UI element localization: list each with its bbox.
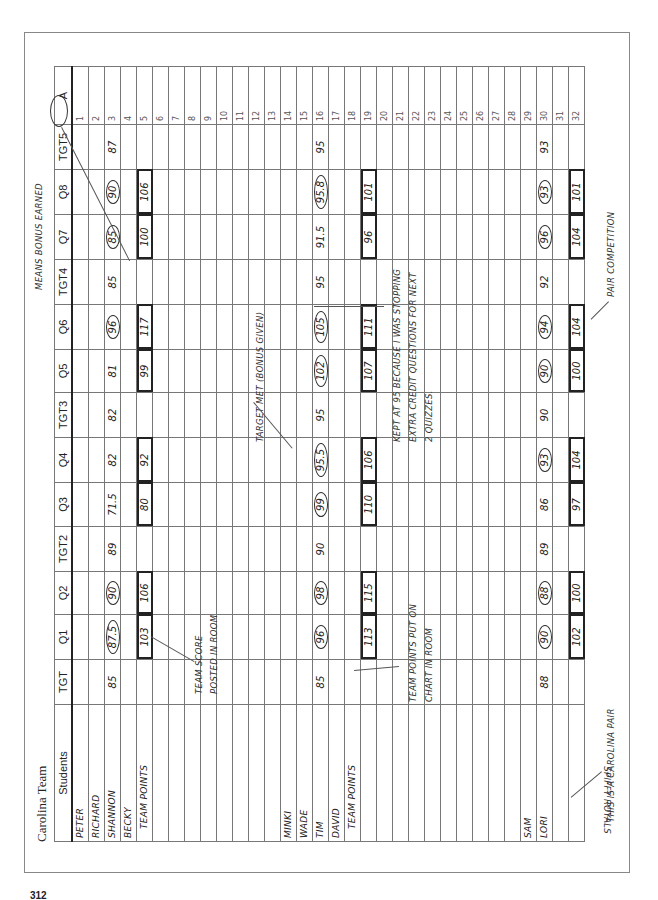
score-cell [377, 615, 393, 660]
score-cell: 95 [313, 260, 329, 305]
carolina-pair-note: THIS IS A CAROLINA PAIR [606, 708, 616, 822]
score-cell [521, 615, 537, 660]
score-cell [457, 660, 473, 705]
score-cell [153, 572, 169, 615]
score-cell [393, 215, 409, 260]
score-cell: 90 [537, 350, 553, 393]
student-name-cell: BECKY [121, 705, 137, 842]
score-cell [505, 572, 521, 615]
score-cell: 89 [537, 527, 553, 572]
row-number: 21 [393, 67, 409, 125]
score-cell [441, 260, 457, 305]
score-table: Students TGT Q1 Q2 TGT2 Q3 Q4 TGT3 Q5 Q6… [54, 66, 585, 842]
row-number: 30 [537, 67, 553, 125]
score-cell [489, 393, 505, 438]
table-row: 7 [169, 67, 185, 842]
score-cell [185, 215, 201, 260]
score-cell [297, 393, 313, 438]
table-row: BECKY4 [121, 67, 137, 842]
kept-pointer-line [314, 306, 384, 307]
row-number: 11 [233, 67, 249, 125]
score-cell [553, 305, 569, 350]
score-cell [169, 615, 185, 660]
table-row: 21 [393, 67, 409, 842]
student-name-cell [473, 705, 489, 842]
score-value: 102 [571, 627, 582, 646]
team-points-chart-note-1: TEAM POINTS PUT ON [408, 604, 418, 702]
score-cell [457, 438, 473, 483]
score-value: 95 [315, 141, 326, 154]
score-cell [361, 393, 377, 438]
score-cell [153, 483, 169, 527]
score-cell [569, 527, 585, 572]
score-cell [265, 483, 281, 527]
score-cell [185, 483, 201, 527]
score-cell [297, 260, 313, 305]
table-row: DAVID17 [329, 67, 345, 842]
score-cell: 97 [569, 483, 585, 527]
score-cell [505, 305, 521, 350]
score-cell [233, 170, 249, 215]
score-cell [457, 615, 473, 660]
student-name-cell: TEAM POINTS [137, 705, 153, 842]
score-value: 117 [139, 317, 150, 336]
score-value: 113 [363, 627, 374, 646]
score-cell [249, 125, 265, 170]
bonus-circled-score: 93 [538, 180, 552, 205]
score-cell: 91.5 [313, 215, 329, 260]
col-q3: Q3 [55, 483, 73, 527]
row-number: 27 [489, 67, 505, 125]
row-number: 1 [72, 67, 89, 125]
score-cell: 100 [137, 215, 153, 260]
bonus-circled-score: 90 [106, 180, 120, 205]
row-number: 8 [185, 67, 201, 125]
bonus-circled-score: 96 [106, 315, 120, 340]
score-cell: 104 [569, 215, 585, 260]
score-cell [217, 572, 233, 615]
score-cell [89, 527, 105, 572]
score-cell [233, 527, 249, 572]
score-cell [425, 260, 441, 305]
score-value: 90 [539, 409, 550, 422]
score-value: 104 [571, 227, 582, 246]
score-cell [169, 393, 185, 438]
score-cell [505, 350, 521, 393]
table-row: 23 [425, 67, 441, 842]
score-cell [249, 483, 265, 527]
score-cell [505, 438, 521, 483]
score-cell [473, 615, 489, 660]
student-name-cell [265, 705, 281, 842]
score-cell [137, 125, 153, 170]
score-cell: 96 [105, 305, 121, 350]
team-score-note-1: TEAM SCORE [194, 635, 204, 694]
score-cell [521, 170, 537, 215]
score-cell [297, 305, 313, 350]
score-value: 111 [363, 317, 374, 336]
score-cell [425, 483, 441, 527]
score-value: 101 [571, 182, 582, 201]
student-name-cell [505, 705, 521, 842]
score-cell [377, 260, 393, 305]
score-value: 89 [539, 543, 550, 556]
score-cell [489, 438, 505, 483]
bonus-circled-score: 95.5 [314, 443, 328, 477]
score-cell [489, 483, 505, 527]
score-cell [441, 660, 457, 705]
score-value: 85 [315, 676, 326, 689]
score-cell [521, 350, 537, 393]
score-cell [201, 305, 217, 350]
score-cell: 101 [361, 170, 377, 215]
score-cell [233, 350, 249, 393]
table-row: 20 [377, 67, 393, 842]
table-row: 10 [217, 67, 233, 842]
score-cell [169, 572, 185, 615]
table-row: 12 [249, 67, 265, 842]
student-name-cell [249, 705, 265, 842]
score-cell [393, 572, 409, 615]
score-cell [377, 125, 393, 170]
score-cell [489, 350, 505, 393]
score-cell: 85 [105, 260, 121, 305]
score-cell [409, 215, 425, 260]
score-cell [473, 170, 489, 215]
score-cell [281, 350, 297, 393]
